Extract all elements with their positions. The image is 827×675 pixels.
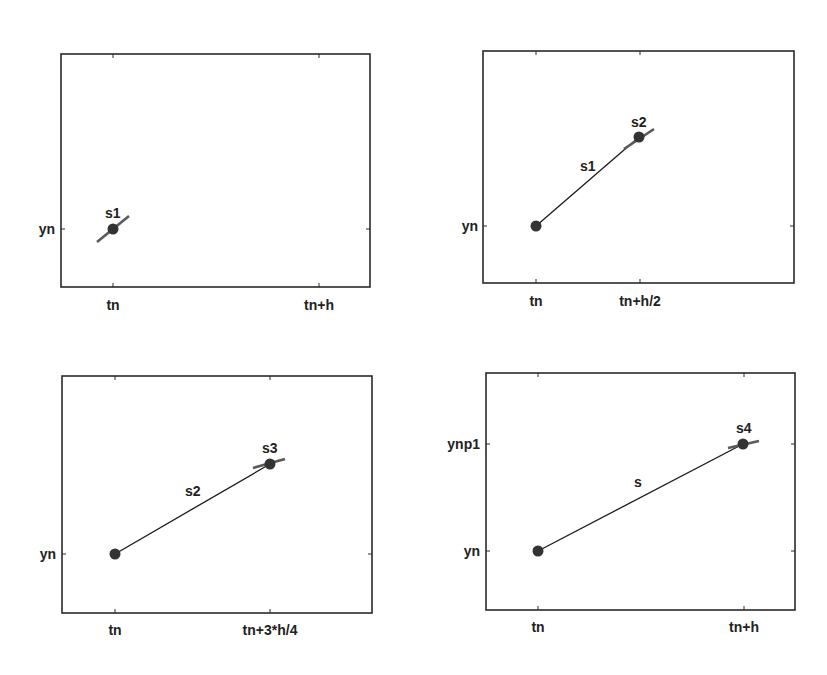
slope-label: s4	[736, 420, 752, 436]
segment-label: s1	[580, 158, 596, 174]
euler-segment	[536, 137, 639, 226]
x-tick-label: tn+h	[304, 297, 334, 313]
slope-label: s3	[262, 440, 278, 456]
start-point-marker	[110, 549, 121, 560]
x-tick-label: tn	[108, 622, 121, 638]
panel-3: s3 s2 tn tn+3*h/4 yn	[40, 376, 372, 638]
y-tick-label: yn	[464, 543, 480, 559]
point-marker	[738, 439, 749, 450]
figure: s1 tn tn+h yn s2 s1 tn tn+h/2 yn	[0, 0, 827, 675]
slope-label: s2	[631, 114, 647, 130]
rk4-step-segment	[538, 444, 743, 551]
y-tick-label: yn	[39, 221, 55, 237]
slope-label: s1	[105, 205, 121, 221]
y-tick-label: ynp1	[447, 436, 480, 452]
x-tick-label: tn+h/2	[619, 293, 661, 309]
panel-4: s4 s tn tn+h yn ynp1	[447, 373, 795, 635]
axes-frame	[486, 373, 795, 610]
segment-label: s2	[185, 483, 201, 499]
panel-2: s2 s1 tn tn+h/2 yn	[462, 51, 794, 309]
x-tick-label: tn	[529, 293, 542, 309]
start-point-marker	[531, 221, 542, 232]
euler-segment	[115, 464, 270, 554]
y-tick-label: yn	[40, 546, 56, 562]
x-tick-label: tn	[106, 297, 119, 313]
x-tick-label: tn	[531, 619, 544, 635]
point-marker	[265, 459, 276, 470]
axes-frame	[483, 51, 794, 283]
axes-frame	[61, 54, 370, 287]
y-tick-label: yn	[462, 218, 478, 234]
point-marker	[108, 224, 119, 235]
x-tick-label: tn+h	[729, 619, 759, 635]
start-point-marker	[533, 546, 544, 557]
point-marker	[634, 132, 645, 143]
segment-label: s	[634, 474, 642, 490]
x-tick-label: tn+3*h/4	[243, 622, 298, 638]
panel-1: s1 tn tn+h yn	[39, 54, 370, 313]
